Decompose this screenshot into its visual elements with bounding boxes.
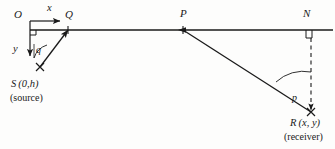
label-origin: O xyxy=(14,9,22,20)
label-point-n: N xyxy=(303,8,310,19)
label-source-coords: (0,h) xyxy=(18,78,38,89)
figure-canvas xyxy=(0,0,335,149)
label-x-axis: x xyxy=(47,3,52,14)
label-receiver-point: R (x, y) xyxy=(290,118,320,129)
source-ray-SQ xyxy=(40,30,68,67)
label-source-letter: S xyxy=(11,78,16,89)
n-right-angle-icon xyxy=(306,30,312,38)
label-receiver-letter: R xyxy=(290,117,296,128)
p-vertex-arrowhead xyxy=(178,27,186,33)
label-source-note: (source) xyxy=(10,93,43,103)
source-point-marker xyxy=(36,63,44,71)
ray-path-figure: O x y Q P N q p S (0,h) (source) R (x, y… xyxy=(0,0,335,149)
label-source-point: S (0,h) xyxy=(11,79,38,90)
receiver-angle-arc xyxy=(276,71,311,82)
label-receiver-note: (receiver) xyxy=(284,132,323,142)
label-point-p: P xyxy=(180,8,187,19)
label-point-q: Q xyxy=(65,9,73,20)
label-y-axis: y xyxy=(13,44,18,55)
label-receiver-coords: (x, y) xyxy=(299,117,321,128)
label-source-angle: q xyxy=(36,45,41,55)
label-receiver-angle: p xyxy=(292,93,297,103)
